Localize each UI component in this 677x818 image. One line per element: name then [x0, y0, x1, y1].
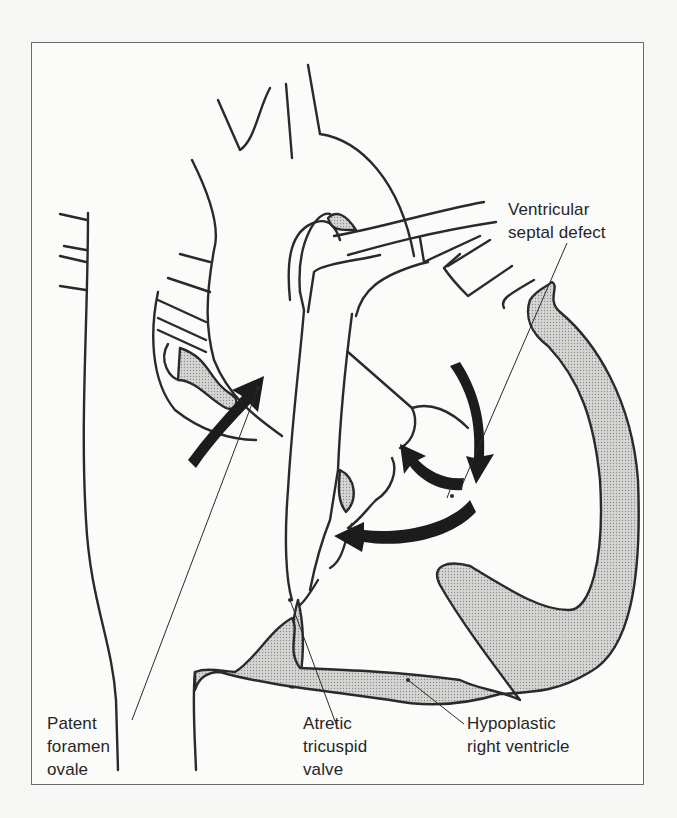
superior-vena-cava [60, 213, 116, 700]
label-line: tricuspid [303, 735, 367, 758]
label-ventricular-septal-defect: Ventricular septal defect [508, 198, 606, 244]
label-line: Hypoplastic [467, 712, 570, 735]
label-line: right ventricle [467, 735, 570, 758]
arrow-down-right [450, 362, 494, 484]
label-hypoplastic-right-ventricle: Hypoplastic right ventricle [467, 712, 570, 758]
label-patent-foramen-ovale: Patent foramen ovale [47, 712, 110, 781]
label-line: Patent [47, 712, 110, 735]
pulmonary-branches-right [444, 240, 534, 308]
leader-vsd [460, 243, 567, 490]
heart-diagram [0, 0, 677, 818]
arrow-to-left [400, 444, 464, 490]
label-line: septal defect [508, 221, 606, 244]
label-atretic-tricuspid-valve: Atretic tricuspid valve [303, 712, 367, 781]
hypoplastic-right-ventricle [195, 282, 639, 704]
label-line: Atretic [303, 712, 367, 735]
left-atrial-appendage [178, 348, 236, 409]
label-line: foramen [47, 735, 110, 758]
label-line: Ventricular [508, 198, 606, 221]
flow-arrows [188, 362, 494, 552]
label-line: ovale [47, 758, 110, 781]
label-line: valve [303, 758, 367, 781]
arrow-bottom [334, 500, 476, 552]
